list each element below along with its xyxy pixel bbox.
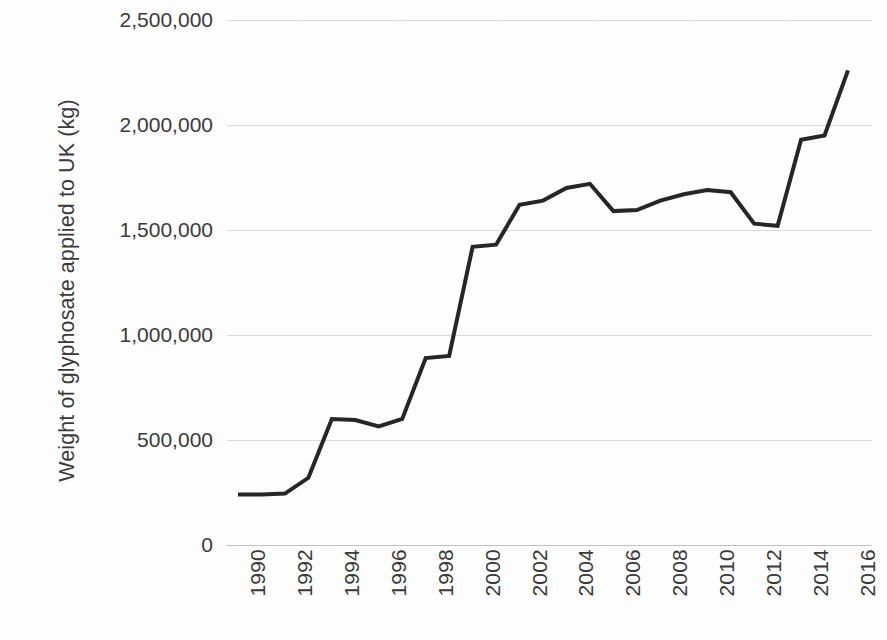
- x-tick-label: 2006: [621, 549, 645, 629]
- x-tick-label: 2012: [762, 549, 786, 629]
- y-axis-tick-labels: 0500,0001,000,0001,500,0002,000,0002,500…: [63, 0, 213, 640]
- series-polyline: [238, 70, 848, 494]
- x-tick-label: 2016: [856, 549, 880, 629]
- y-tick-label: 2,500,000: [63, 8, 213, 32]
- x-tick-label: 2000: [481, 549, 505, 629]
- y-tick-label: 1,000,000: [63, 323, 213, 347]
- y-tick-label: 500,000: [63, 428, 213, 452]
- x-tick-label: 2014: [809, 549, 833, 629]
- x-tick-label: 1992: [293, 549, 317, 629]
- series-line-glyphosate: [227, 20, 872, 545]
- y-tick-label: 0: [63, 533, 213, 557]
- y-tick-label: 1,500,000: [63, 218, 213, 242]
- x-tick-label: 1996: [387, 549, 411, 629]
- x-tick-label: 1998: [434, 549, 458, 629]
- x-tick-label: 1994: [340, 549, 364, 629]
- x-tick-label: 2002: [528, 549, 552, 629]
- x-tick-label: 2010: [715, 549, 739, 629]
- line-chart-figure: Weight of glyphosate applied to UK (kg) …: [0, 0, 887, 640]
- x-tick-label: 1990: [246, 549, 270, 629]
- x-axis-tick-labels: 1990199219941996199820002002200420062008…: [227, 549, 872, 639]
- x-axis-baseline: [227, 545, 872, 546]
- x-tick-label: 2004: [574, 549, 598, 629]
- y-tick-label: 2,000,000: [63, 113, 213, 137]
- x-tick-label: 2008: [668, 549, 692, 629]
- plot-area: [227, 20, 872, 545]
